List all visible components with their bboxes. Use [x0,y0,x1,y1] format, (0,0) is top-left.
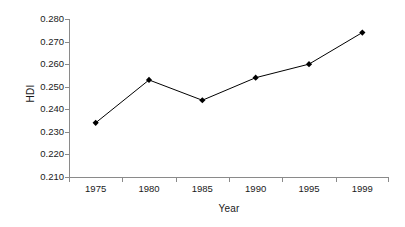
x-axis-tick-label: 1990 [245,183,266,195]
x-axis-tick-mark [229,178,230,182]
data-point-marker [253,75,259,81]
data-point-marker [306,61,312,67]
data-series-hdi [69,19,389,177]
x-axis-title: Year [69,203,389,214]
y-axis-tick-mark [65,64,69,65]
x-axis-tick-label: 1985 [192,183,213,195]
data-point-marker [359,29,365,35]
y-axis-tick-labels: 0.2800.2700.2600.2500.2400.2300.2200.210 [20,0,64,227]
series-line [96,33,363,123]
y-axis-tick-label: 0.250 [20,82,64,92]
y-axis-tick-mark [65,42,69,43]
x-axis-tick-mark [388,178,389,182]
y-axis-tick-label: 0.240 [20,104,64,114]
plot-area [69,19,389,177]
y-axis-tick-label: 0.230 [20,127,64,137]
x-axis-tick-label: 1980 [138,183,159,195]
x-axis-tick-label: 1999 [352,183,373,195]
y-axis-tick-mark [65,109,69,110]
y-axis-tick-label: 0.220 [20,149,64,159]
x-axis-tick-labels: 197519801985199019951999 [69,183,389,197]
x-axis-tick-mark [336,178,337,182]
x-axis-tick-mark [69,178,70,182]
y-axis-tick-label: 0.270 [20,37,64,47]
hdi-line-chart: HDI 0.2800.2700.2600.2500.2400.2300.2200… [0,0,405,227]
x-axis-tick-mark [282,178,283,182]
y-axis-tick-label: 0.280 [20,14,64,24]
x-axis-tick-mark [176,178,177,182]
x-axis-tick-label: 1975 [85,183,106,195]
y-axis-tick-mark [65,132,69,133]
x-axis-tick-mark [122,178,123,182]
data-point-marker [199,97,205,103]
x-axis-tick-label: 1995 [298,183,319,195]
y-axis-tick-mark [65,87,69,88]
y-axis-tick-label: 0.210 [20,172,64,182]
y-axis-tick-mark [65,19,69,20]
y-axis-tick-mark [65,154,69,155]
y-axis-tick-label: 0.260 [20,59,64,69]
